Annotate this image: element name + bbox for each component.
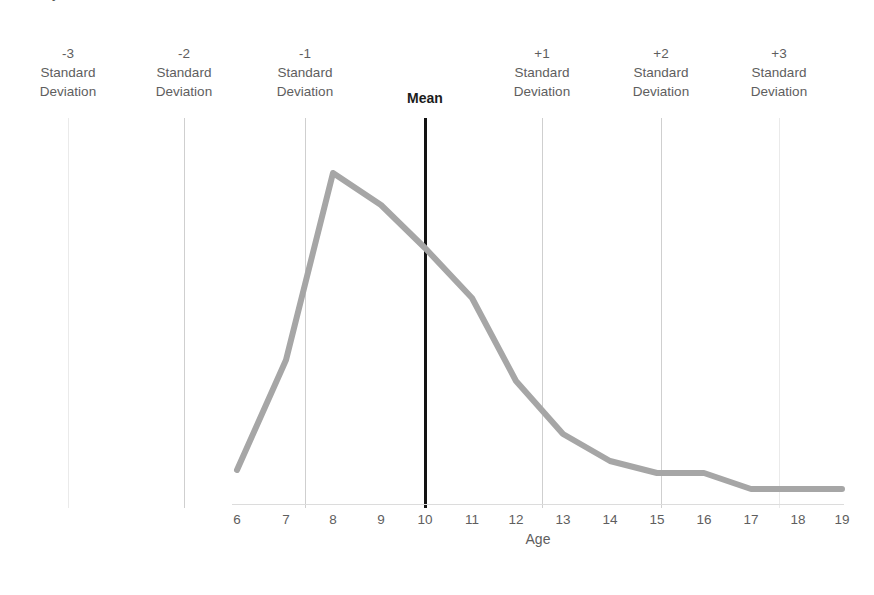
sd-label-+2: +2StandardDeviation <box>606 44 716 101</box>
mean-label: Mean <box>370 89 480 108</box>
sd-label-line2: Deviation <box>129 82 239 101</box>
x-tick-13: 13 <box>548 512 578 527</box>
gridline-sd-+1 <box>542 118 543 508</box>
sd-label-line1: Standard <box>250 63 360 82</box>
x-tick-18: 18 <box>783 512 813 527</box>
sd-label-line2: Deviation <box>724 82 834 101</box>
x-axis-line <box>232 504 844 505</box>
x-tick-8: 8 <box>318 512 348 527</box>
gridline-mean <box>424 118 427 508</box>
sd-label-line1: Standard <box>724 63 834 82</box>
x-tick-16: 16 <box>689 512 719 527</box>
sd-label-line2: Deviation <box>487 82 597 101</box>
gridline-sd-+3 <box>779 118 780 508</box>
x-tick-17: 17 <box>736 512 766 527</box>
sd-label--2: -2StandardDeviation <box>129 44 239 101</box>
sd-label-line2: Deviation <box>250 82 360 101</box>
sd-label-value: +1 <box>487 44 597 63</box>
gridline-sd--2 <box>184 118 185 508</box>
sd-label-line1: Standard <box>13 63 123 82</box>
x-tick-7: 7 <box>271 512 301 527</box>
sd-label--1: -1StandardDeviation <box>250 44 360 101</box>
gridline-sd-+2 <box>661 118 662 508</box>
x-tick-11: 11 <box>457 512 487 527</box>
x-tick-9: 9 <box>366 512 396 527</box>
sd-label-line2: Deviation <box>606 82 716 101</box>
sd-label-+1: +1StandardDeviation <box>487 44 597 101</box>
x-tick-6: 6 <box>222 512 252 527</box>
sd-label-value: -3 <box>13 44 123 63</box>
chart-canvas: y -3StandardDeviation-2StandardDeviation… <box>0 0 874 595</box>
x-tick-19: 19 <box>827 512 857 527</box>
sd-label-value: -1 <box>250 44 360 63</box>
sd-label-value: -2 <box>129 44 239 63</box>
gridline-sd--3 <box>68 118 69 508</box>
x-tick-12: 12 <box>501 512 531 527</box>
gridline-sd--1 <box>305 118 306 508</box>
sd-label--3: -3StandardDeviation <box>13 44 123 101</box>
x-tick-10: 10 <box>410 512 440 527</box>
clipped-title-remnant: y <box>0 0 874 6</box>
x-tick-14: 14 <box>595 512 625 527</box>
x-axis-title: Age <box>478 531 598 547</box>
sd-label-line1: Standard <box>129 63 239 82</box>
sd-label-value: +2 <box>606 44 716 63</box>
x-tick-15: 15 <box>642 512 672 527</box>
sd-label-line1: Standard <box>487 63 597 82</box>
sd-label-+3: +3StandardDeviation <box>724 44 834 101</box>
sd-label-line2: Deviation <box>13 82 123 101</box>
sd-label-line1: Standard <box>606 63 716 82</box>
sd-label-value: +3 <box>724 44 834 63</box>
